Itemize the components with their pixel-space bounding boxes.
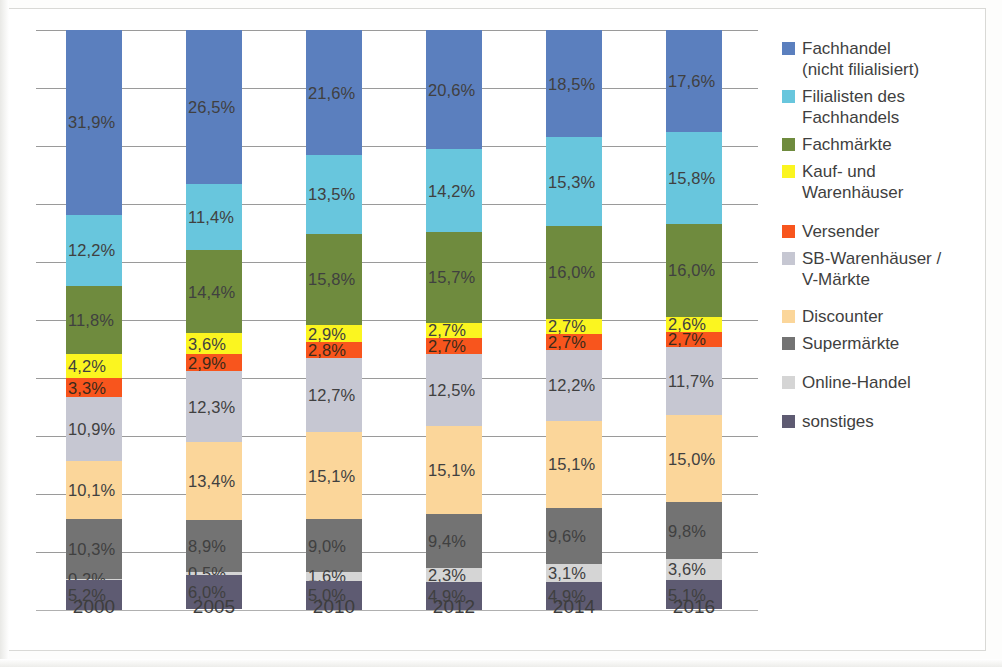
bar-segment[interactable]: 9,0%: [306, 519, 362, 571]
bar-segment[interactable]: 3,1%: [546, 564, 602, 582]
bar-segment[interactable]: 13,5%: [306, 155, 362, 233]
bar-segment[interactable]: 2,7%: [426, 338, 482, 354]
legend-item-label: Discounter: [802, 306, 883, 327]
stacked-bar-2012[interactable]: 20,6%14,2%15,7%2,7%2,7%12,5%15,1%9,4%2,3…: [426, 30, 482, 610]
bar-segment[interactable]: 13,4%: [186, 442, 242, 520]
legend-item[interactable]: Online-Handel: [782, 372, 982, 393]
gridline: [36, 378, 758, 379]
segment-value-label: 15,3%: [548, 172, 595, 191]
bar-segment[interactable]: 10,1%: [66, 461, 122, 520]
segment-value-label: 15,7%: [428, 268, 475, 287]
bar-segment[interactable]: 12,2%: [66, 215, 122, 286]
bar-segment[interactable]: 2,8%: [306, 342, 362, 358]
scan-edge-left: [0, 0, 9, 667]
bar-segment[interactable]: 17,6%: [666, 30, 722, 132]
bar-segment[interactable]: 4,2%: [66, 354, 122, 378]
segment-value-label: 2,8%: [308, 341, 346, 360]
segment-value-label: 16,0%: [668, 261, 715, 280]
bar-segment[interactable]: 12,5%: [426, 354, 482, 426]
segment-value-label: 15,1%: [308, 466, 355, 485]
legend-item-label: Fachmärkte: [802, 134, 892, 155]
bar-segment[interactable]: 15,1%: [306, 432, 362, 520]
bar-segment[interactable]: 3,6%: [186, 333, 242, 354]
bar-segment[interactable]: 12,3%: [186, 371, 242, 442]
gridline: [36, 30, 758, 31]
bar-segment[interactable]: 2,3%: [426, 568, 482, 581]
bar-segment[interactable]: 15,8%: [306, 234, 362, 326]
bar-segment[interactable]: 2,7%: [666, 332, 722, 348]
scan-edge-bottom: [0, 659, 1002, 667]
bar-segment[interactable]: 1,6%: [306, 572, 362, 581]
bar-segment[interactable]: 18,5%: [546, 30, 602, 137]
legend-item[interactable]: Fachhandel (nicht filialisiert): [782, 38, 982, 80]
legend-swatch-icon: [782, 165, 795, 178]
chart-scan-background: 31,9%12,2%11,8%4,2%3,3%10,9%10,1%10,3%0,…: [0, 0, 1002, 667]
stacked-bar-2005[interactable]: 26,5%11,4%14,4%3,6%2,9%12,3%13,4%8,9%0,5…: [186, 30, 242, 610]
segment-value-label: 31,9%: [68, 113, 115, 132]
gridline: [36, 494, 758, 495]
bar-segment[interactable]: 12,7%: [306, 358, 362, 432]
legend-item[interactable]: Fachmärkte: [782, 134, 982, 155]
legend-item[interactable]: Filialisten des Fachhandels: [782, 86, 982, 128]
bar-segment[interactable]: 16,0%: [546, 226, 602, 319]
bar-segment[interactable]: 14,2%: [426, 149, 482, 231]
segment-value-label: 13,5%: [308, 185, 355, 204]
bar-segment[interactable]: 26,5%: [186, 30, 242, 184]
bar-segment[interactable]: 31,9%: [66, 30, 122, 215]
gridline: [36, 262, 758, 263]
x-tick-2010: 2010: [274, 596, 394, 618]
legend-item[interactable]: Discounter: [782, 306, 982, 327]
bar-segment[interactable]: 9,8%: [666, 502, 722, 559]
bar-segment[interactable]: 15,7%: [426, 232, 482, 323]
segment-value-label: 12,3%: [188, 397, 235, 416]
bar-segment[interactable]: 2,7%: [546, 334, 602, 350]
legend-item-label: Fachhandel (nicht filialisiert): [802, 38, 919, 80]
x-tick-2014: 2014: [514, 596, 634, 618]
bar-segment[interactable]: 11,7%: [666, 347, 722, 415]
bar-segment[interactable]: 21,6%: [306, 30, 362, 155]
stacked-bar-2010[interactable]: 21,6%13,5%15,8%2,9%2,8%12,7%15,1%9,0%1,6…: [306, 30, 362, 610]
bar-segment[interactable]: 12,2%: [546, 350, 602, 421]
stacked-bar-2000[interactable]: 31,9%12,2%11,8%4,2%3,3%10,9%10,1%10,3%0,…: [66, 30, 122, 610]
bar-segment[interactable]: 11,4%: [186, 184, 242, 250]
legend-item[interactable]: sonstiges: [782, 411, 982, 432]
bar-segment[interactable]: 15,8%: [666, 132, 722, 224]
bar-segment[interactable]: 9,4%: [426, 514, 482, 568]
segment-value-label: 20,6%: [428, 80, 475, 99]
gridline: [36, 436, 758, 437]
legend-swatch-icon: [782, 376, 795, 389]
bar-segment[interactable]: 2,9%: [186, 354, 242, 371]
segment-value-label: 17,6%: [668, 72, 715, 91]
segment-value-label: 18,5%: [548, 74, 595, 93]
gridline: [36, 204, 758, 205]
legend-item[interactable]: SB-Warenhäuser / V-Märkte: [782, 248, 982, 290]
segment-value-label: 11,7%: [668, 372, 714, 391]
bar-segment[interactable]: 20,6%: [426, 30, 482, 149]
bar-segment[interactable]: 10,9%: [66, 397, 122, 460]
legend-swatch-icon: [782, 90, 795, 103]
bar-segment[interactable]: 15,0%: [666, 415, 722, 502]
bar-segment[interactable]: 11,8%: [66, 286, 122, 354]
bar-segment[interactable]: 15,3%: [546, 137, 602, 226]
bar-segment[interactable]: 15,1%: [546, 421, 602, 509]
segment-value-label: 15,1%: [428, 461, 475, 480]
bar-segment[interactable]: 3,6%: [666, 559, 722, 580]
bar-segment[interactable]: 16,0%: [666, 224, 722, 317]
segment-value-label: 2,9%: [188, 353, 226, 372]
segment-value-label: 10,9%: [68, 419, 115, 438]
legend-item[interactable]: Supermärkte: [782, 333, 982, 354]
stacked-bar-2014[interactable]: 18,5%15,3%16,0%2,7%2,7%12,2%15,1%9,6%3,1…: [546, 30, 602, 610]
segment-value-label: 15,8%: [668, 168, 715, 187]
bar-segment[interactable]: 3,3%: [66, 378, 122, 397]
legend-item[interactable]: Kauf- und Warenhäuser: [782, 161, 982, 203]
bar-segment[interactable]: 14,4%: [186, 250, 242, 334]
bar-segment[interactable]: 2,9%: [306, 325, 362, 342]
legend-item[interactable]: Versender: [782, 221, 982, 242]
legend-item-label: Filialisten des Fachhandels: [802, 86, 905, 128]
segment-value-label: 2,7%: [428, 337, 466, 356]
segment-value-label: 9,6%: [548, 526, 586, 545]
bar-segment[interactable]: 15,1%: [426, 426, 482, 514]
legend-swatch-icon: [782, 225, 795, 238]
stacked-bar-2016[interactable]: 17,6%15,8%16,0%2,6%2,7%11,7%15,0%9,8%3,6…: [666, 30, 722, 610]
bar-segment[interactable]: 9,6%: [546, 508, 602, 564]
